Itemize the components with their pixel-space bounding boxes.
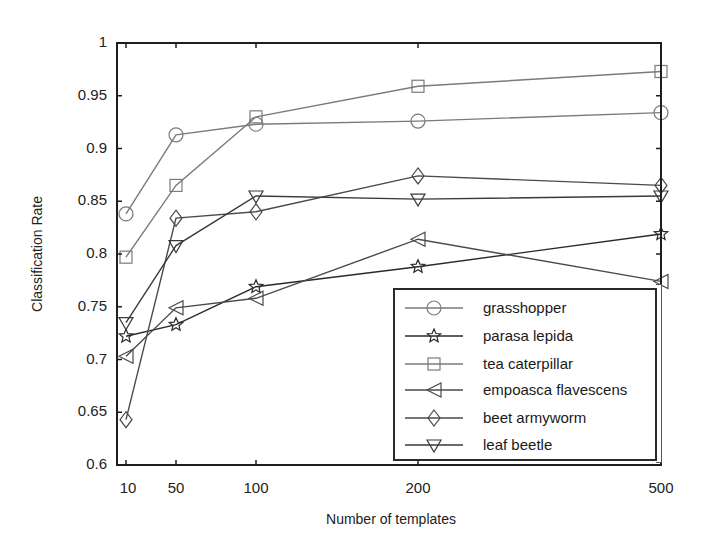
x-tick-label: 500 [641, 479, 681, 496]
triangle-down-marker-icon [403, 433, 465, 457]
y-tick-label: 0.6 [47, 455, 107, 472]
legend-label: empoasca flavescens [483, 381, 627, 398]
legend-label: parasa lepida [483, 327, 573, 344]
y-tick-label: 0.65 [47, 402, 107, 419]
y-tick-label: 0.95 [47, 86, 107, 103]
circle-marker-icon [403, 296, 465, 320]
diamond-marker-icon [120, 412, 132, 428]
triangle-down-marker-icon [427, 440, 441, 452]
legend-item-tea-caterpillar: tea caterpillar [395, 352, 655, 376]
y-tick-label: 0.7 [47, 350, 107, 367]
x-tick-label: 10 [108, 479, 148, 496]
y-tick-label: 0.9 [47, 139, 107, 156]
legend-item-empoasca-flavescens: empoasca flavescens [395, 378, 655, 402]
y-tick-label: 0.8 [47, 244, 107, 261]
y-tick-label: 1 [47, 33, 107, 50]
y-tick-label: 0.85 [47, 191, 107, 208]
triangle-left-marker-icon [403, 378, 465, 402]
circle-marker-icon [119, 207, 133, 221]
legend-item-grasshopper: grasshopper [395, 296, 655, 320]
square-marker-icon [403, 352, 465, 376]
legend-item-beet-armyworm: beet armyworm [395, 406, 655, 430]
x-axis-label: Number of templates [326, 511, 456, 527]
triangle-down-marker-icon [249, 191, 263, 203]
legend-item-leaf-beetle: leaf beetle [395, 433, 655, 457]
legend-item-parasa-lepida: parasa lepida [395, 324, 655, 348]
series-tea-caterpillar [120, 65, 667, 263]
legend-label: leaf beetle [483, 436, 552, 453]
x-tick-label: 50 [156, 479, 196, 496]
y-tick-label: 0.75 [47, 297, 107, 314]
x-tick-label: 200 [398, 479, 438, 496]
legend-label: tea caterpillar [483, 355, 573, 372]
star-marker-icon [403, 324, 465, 348]
legend: grasshopper parasa lepida tea caterpilla… [393, 288, 657, 461]
x-tick-label: 100 [236, 479, 276, 496]
legend-label: grasshopper [483, 299, 566, 316]
y-axis-label: Classification Rate [29, 196, 45, 312]
triangle-down-marker-icon [411, 194, 425, 206]
legend-label: beet armyworm [483, 409, 586, 426]
diamond-marker-icon [403, 406, 465, 430]
series-line [126, 72, 661, 258]
triangle-down-marker-icon [119, 318, 133, 330]
